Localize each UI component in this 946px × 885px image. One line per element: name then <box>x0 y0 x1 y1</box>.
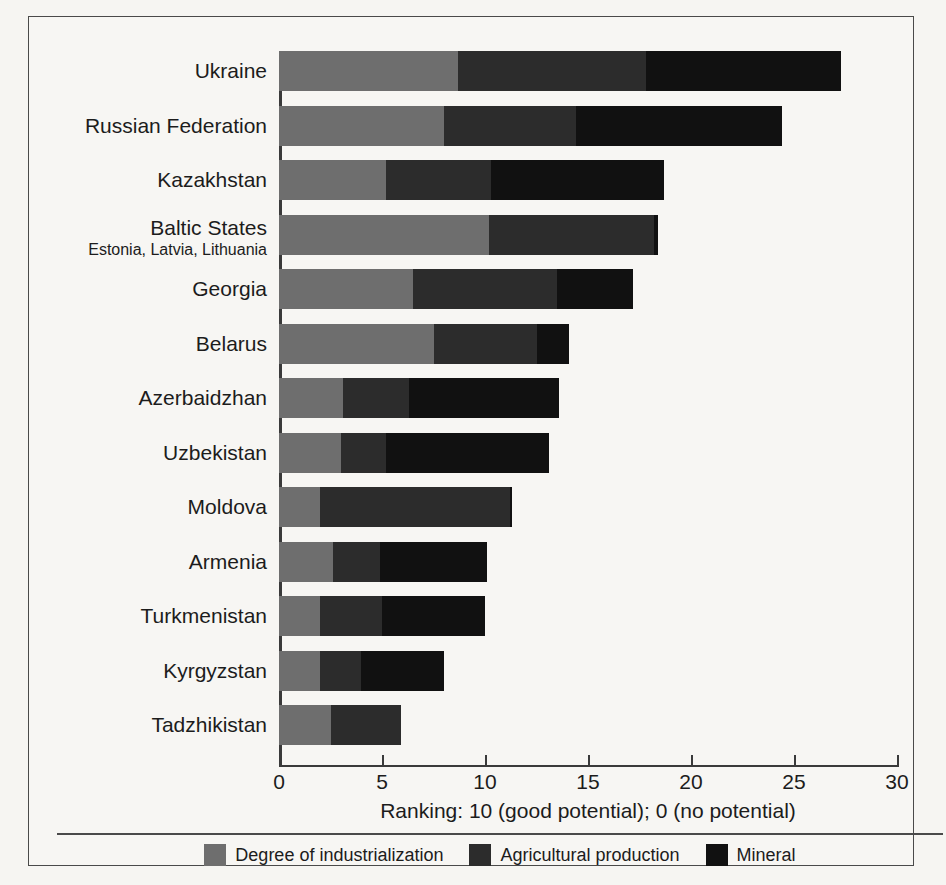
bar-segment-mineral[interactable] <box>576 106 782 146</box>
category-label: Kazakhstan <box>37 168 267 192</box>
bar-segment-agricultural-production[interactable] <box>458 51 645 91</box>
chart-frame: 051015202530 Ranking: 10 (good potential… <box>28 16 914 866</box>
axis-tick-label: 0 <box>249 770 309 794</box>
legend-item[interactable]: Mineral <box>706 844 796 866</box>
bar-segment-degree-of-industrialization[interactable] <box>279 542 333 582</box>
bar-segment-mineral[interactable] <box>409 378 559 418</box>
axis-tick-label: 20 <box>661 770 721 794</box>
stacked-bar[interactable] <box>279 487 512 527</box>
axis-tick <box>485 755 487 766</box>
stacked-bar[interactable] <box>279 106 782 146</box>
bar-segment-degree-of-industrialization[interactable] <box>279 596 320 636</box>
bar-segment-agricultural-production[interactable] <box>343 378 409 418</box>
bar-segment-mineral[interactable] <box>380 542 487 582</box>
bar-segment-agricultural-production[interactable] <box>320 651 361 691</box>
legend-swatch-icon <box>469 844 491 866</box>
stacked-bar[interactable] <box>279 378 559 418</box>
category-label: Ukraine <box>37 59 267 83</box>
bar-segment-agricultural-production[interactable] <box>489 215 654 255</box>
bar-segment-degree-of-industrialization[interactable] <box>279 160 386 200</box>
legend-item[interactable]: Agricultural production <box>469 844 679 866</box>
bar-segment-degree-of-industrialization[interactable] <box>279 324 434 364</box>
bar-segment-degree-of-industrialization[interactable] <box>279 378 343 418</box>
bar-segment-mineral[interactable] <box>654 215 658 255</box>
bar-segment-degree-of-industrialization[interactable] <box>279 433 341 473</box>
stacked-bar[interactable] <box>279 542 487 582</box>
bar-segment-degree-of-industrialization[interactable] <box>279 215 489 255</box>
bar-segment-mineral[interactable] <box>537 324 570 364</box>
category-label: Russian Federation <box>37 114 267 138</box>
category-label: Belarus <box>37 332 267 356</box>
stacked-bar[interactable] <box>279 215 658 255</box>
bar-segment-mineral[interactable] <box>510 487 512 527</box>
stacked-bar[interactable] <box>279 651 444 691</box>
legend: Degree of industrializationAgricultural … <box>57 835 943 875</box>
category-label: Kyrgyzstan <box>37 659 267 683</box>
axis-tick-label: 15 <box>558 770 618 794</box>
category-sublabel: Estonia, Latvia, Lithuania <box>37 241 267 259</box>
stacked-bar[interactable] <box>279 160 664 200</box>
axis-tick <box>691 755 693 766</box>
bar-segment-degree-of-industrialization[interactable] <box>279 705 331 745</box>
legend-swatch-icon <box>204 844 226 866</box>
x-axis-title: Ranking: 10 (good potential); 0 (no pote… <box>279 799 897 823</box>
stacked-bar[interactable] <box>279 51 841 91</box>
bar-segment-mineral[interactable] <box>361 651 443 691</box>
stacked-bar[interactable] <box>279 596 485 636</box>
axis-tick <box>279 755 281 766</box>
category-label: Baltic States <box>37 216 267 240</box>
bar-segment-degree-of-industrialization[interactable] <box>279 487 320 527</box>
legend-label: Agricultural production <box>500 845 679 866</box>
category-label: Turkmenistan <box>37 604 267 628</box>
axis-tick-label: 25 <box>764 770 824 794</box>
legend-label: Mineral <box>737 845 796 866</box>
category-label: Tadzhikistan <box>37 713 267 737</box>
bar-segment-agricultural-production[interactable] <box>434 324 537 364</box>
bar-segment-degree-of-industrialization[interactable] <box>279 269 413 309</box>
category-label: Armenia <box>37 550 267 574</box>
bar-segment-agricultural-production[interactable] <box>320 596 382 636</box>
category-label: Georgia <box>37 277 267 301</box>
stacked-bar[interactable] <box>279 324 569 364</box>
bar-segment-mineral[interactable] <box>646 51 842 91</box>
legend-item[interactable]: Degree of industrialization <box>204 844 443 866</box>
legend-swatch-icon <box>706 844 728 866</box>
bar-segment-degree-of-industrialization[interactable] <box>279 106 444 146</box>
axis-tick-label: 30 <box>867 770 927 794</box>
bar-segment-agricultural-production[interactable] <box>333 542 380 582</box>
axis-tick <box>897 755 899 766</box>
bar-segment-agricultural-production[interactable] <box>320 487 510 527</box>
axis-tick <box>588 755 590 766</box>
stacked-bar[interactable] <box>279 705 401 745</box>
bar-segment-agricultural-production[interactable] <box>331 705 401 745</box>
bar-segment-degree-of-industrialization[interactable] <box>279 651 320 691</box>
bar-segment-agricultural-production[interactable] <box>413 269 557 309</box>
bar-segment-mineral[interactable] <box>491 160 664 200</box>
axis-tick-label: 10 <box>455 770 515 794</box>
bar-segment-agricultural-production[interactable] <box>386 160 491 200</box>
bar-segment-mineral[interactable] <box>382 596 485 636</box>
bar-segment-degree-of-industrialization[interactable] <box>279 51 458 91</box>
bar-segment-agricultural-production[interactable] <box>341 433 386 473</box>
category-label: Uzbekistan <box>37 441 267 465</box>
axis-tick-label: 5 <box>352 770 412 794</box>
axis-tick <box>794 755 796 766</box>
category-label: Moldova <box>37 495 267 519</box>
bar-segment-agricultural-production[interactable] <box>444 106 576 146</box>
bar-segment-mineral[interactable] <box>386 433 549 473</box>
category-label: Azerbaidzhan <box>37 386 267 410</box>
bar-segment-mineral[interactable] <box>557 269 633 309</box>
axis-tick <box>382 755 384 766</box>
stacked-bar[interactable] <box>279 433 549 473</box>
figure: 051015202530 Ranking: 10 (good potential… <box>0 0 946 885</box>
stacked-bar[interactable] <box>279 269 633 309</box>
legend-label: Degree of industrialization <box>235 845 443 866</box>
